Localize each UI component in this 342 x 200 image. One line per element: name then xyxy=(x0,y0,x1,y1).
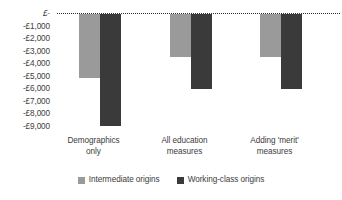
plot-area xyxy=(57,14,340,127)
y-tick-label: -£6,000 xyxy=(23,85,50,93)
bar-intermediate-origins xyxy=(170,14,191,57)
x-category-label-line: measures xyxy=(138,147,231,158)
legend-item-intermediate-origins: Intermediate origins xyxy=(78,176,160,184)
legend-swatch-icon xyxy=(177,177,184,184)
bar-working-class-origins xyxy=(100,14,121,126)
y-tick-label: -£9,000 xyxy=(23,123,50,131)
bar-intermediate-origins xyxy=(260,14,281,57)
x-category-label-line: measures xyxy=(228,147,321,158)
x-category-label-line: only xyxy=(47,147,140,158)
y-tick-label: -£5,000 xyxy=(23,73,50,81)
y-tick-label: -£2,000 xyxy=(23,35,50,43)
y-tick-label: -£3,000 xyxy=(23,47,50,55)
y-tick-label: -£7,000 xyxy=(23,98,50,106)
legend-label: Working-class origins xyxy=(188,176,265,184)
y-axis: £- -£1,000 -£2,000 -£3,000 -£4,000 -£5,0… xyxy=(0,0,55,200)
x-category-label: All education measures xyxy=(138,136,231,157)
y-tick-label: -£8,000 xyxy=(23,110,50,118)
y-tick-label: -£4,000 xyxy=(23,60,50,68)
bar-working-class-origins xyxy=(281,14,302,89)
x-category-label: Adding 'merit' measures xyxy=(228,136,321,157)
legend-swatch-icon xyxy=(78,177,85,184)
x-category-label-line: All education xyxy=(138,136,231,147)
bar-working-class-origins xyxy=(191,14,212,89)
x-category-label-line: Adding 'merit' xyxy=(228,136,321,147)
y-tick-label: -£1,000 xyxy=(23,22,50,30)
y-tick-label: £- xyxy=(43,10,50,18)
legend-item-working-class-origins: Working-class origins xyxy=(177,176,265,184)
bar-intermediate-origins xyxy=(79,14,100,78)
bar-chart: £- -£1,000 -£2,000 -£3,000 -£4,000 -£5,0… xyxy=(0,0,342,200)
x-category-label: Demographics only xyxy=(47,136,140,157)
chart-legend: Intermediate origins Working-class origi… xyxy=(0,176,342,184)
x-category-label-line: Demographics xyxy=(47,136,140,147)
legend-label: Intermediate origins xyxy=(89,176,160,184)
